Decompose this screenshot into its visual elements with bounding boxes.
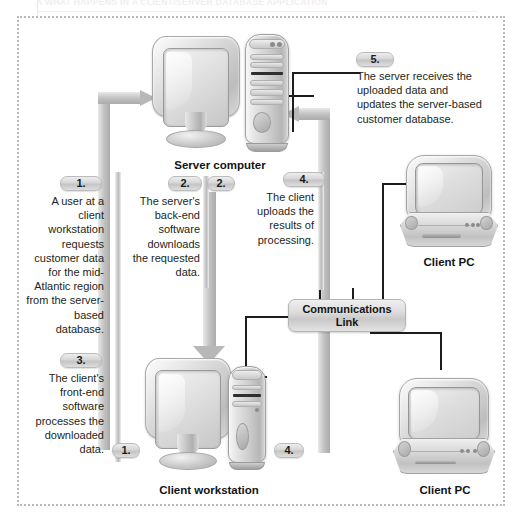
communications-link-line2: Link	[289, 316, 405, 329]
client-tower-bay-2	[232, 401, 262, 406]
client-pc-top-label: Client PC	[400, 256, 498, 268]
client-workstation-base	[159, 452, 217, 470]
server-tower-bay-1	[250, 54, 284, 60]
wire-step5-horizontal	[292, 72, 360, 74]
server-monitor	[152, 36, 240, 148]
figure-caption: A WHAT HAPPENS IN A CLIENT/SERVER DATABA…	[36, 0, 466, 8]
client-pc-bottom-port-c	[473, 449, 477, 453]
client-pc-top-device	[400, 155, 498, 247]
client-tower-vent	[236, 423, 249, 450]
workstation-in-badge: 4.	[274, 443, 304, 458]
server-tower-bay-4	[250, 89, 284, 95]
step-2-badge: 2.	[168, 176, 202, 191]
client-pc-bottom-speaker-right	[477, 441, 490, 456]
client-pc-bottom-drive-slot	[415, 461, 456, 465]
server-tower-bay-5	[250, 99, 284, 105]
step-5-text: The server receives the uploaded data an…	[357, 69, 485, 126]
wire-clientpc-top-vertical	[382, 183, 384, 305]
client-tower-body	[228, 366, 266, 463]
step-3-badge: 3.	[60, 353, 102, 368]
caption-bottom-rule	[37, 11, 477, 12]
column-rule-mid	[203, 176, 209, 288]
client-pc-bottom-trim	[409, 451, 466, 452]
client-workstation-label: Client workstation	[128, 484, 290, 496]
server-tower-led-b	[277, 42, 282, 47]
client-pc-bottom-speaker-left	[398, 441, 411, 456]
server-tower-bay-3	[250, 80, 284, 86]
step-3-text: The client's front-end software processe…	[24, 371, 104, 456]
client-tower-drive-slot	[233, 394, 261, 396]
workstation-out-badge: 1.	[112, 443, 140, 458]
step-2-text: The server's back-end software downloads…	[130, 194, 200, 279]
client-pc-bottom-label: Client PC	[395, 484, 495, 496]
client-tower-bay-1	[232, 385, 262, 390]
server-tower-bay-2	[250, 62, 284, 68]
wire-clientpc-bottom-horizontal	[370, 332, 442, 334]
wire-clientpc-bottom-vertical	[440, 332, 442, 370]
server-computer-label: Server computer	[146, 159, 294, 171]
arrow-step4-horizontal	[297, 108, 330, 120]
client-pc-top-port-a	[465, 223, 469, 227]
client-workstation-monitor	[145, 358, 231, 470]
client-tower-top-panel	[232, 370, 262, 379]
client-pc-top-port-b	[471, 223, 475, 227]
client-pc-top-speaker-left	[405, 216, 418, 231]
figure-canvas: A WHAT HAPPENS IN A CLIENT/SERVER DATABA…	[0, 0, 520, 520]
communications-link-box: Communications Link	[288, 299, 406, 332]
client-tower-foot	[229, 462, 265, 470]
step-4-badge: 4.	[283, 172, 325, 187]
arrow-step1-horizontal	[98, 92, 142, 104]
server-monitor-base	[166, 130, 226, 148]
step-1-text: A user at a client workstation requests …	[24, 194, 104, 336]
step-4-text: The client uploads the results of proces…	[240, 190, 314, 247]
server-tower-foot	[246, 143, 288, 152]
column-rule-right	[318, 172, 324, 290]
server-tower	[245, 34, 289, 152]
server-tower-drive-slot	[251, 72, 284, 75]
step-2-arrow-badge: 2.	[207, 176, 235, 191]
client-workstation-tower	[228, 366, 266, 470]
step-5-badge: 5.	[356, 52, 394, 67]
wire-step5-vertical	[292, 72, 294, 132]
step-1-badge: 1.	[60, 176, 102, 191]
client-pc-top-drive-slot	[422, 234, 461, 238]
server-tower-led-a	[270, 42, 275, 47]
client-pc-top-trim	[416, 225, 471, 226]
wire-workstation-horizontal	[245, 316, 291, 318]
column-rule-left	[115, 172, 121, 462]
communications-link-line1: Communications	[289, 303, 405, 316]
client-pc-bottom-device	[393, 378, 495, 474]
